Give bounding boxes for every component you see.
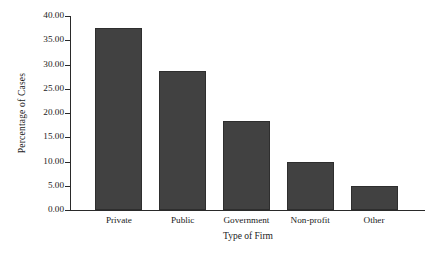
x-axis-tick-label: Other — [364, 213, 385, 227]
bar — [159, 71, 206, 210]
y-axis-tick-label: 40.00 — [43, 11, 64, 20]
bar — [351, 186, 398, 210]
y-axis-tick-mark — [65, 162, 70, 163]
x-axis-tick-label: Government — [223, 213, 269, 227]
bar — [287, 162, 334, 211]
y-axis-tick-label: 20.00 — [43, 108, 64, 117]
y-axis-tick-mark — [65, 65, 70, 66]
bar-chart: Percentage of Cases 0.005.0010.0015.0020… — [0, 0, 434, 263]
x-axis-tick-label: Non-profit — [291, 213, 330, 227]
y-axis-tick-mark — [65, 16, 70, 17]
y-axis-tick-mark — [65, 113, 70, 114]
x-axis-tick-label: Private — [106, 213, 132, 227]
bar — [223, 121, 270, 210]
y-axis-tick-mark — [65, 137, 70, 138]
x-axis-tick-labels: PrivatePublicGovernmentNon-profitOther — [71, 213, 425, 227]
bar — [95, 28, 142, 210]
y-axis-tick-mark — [65, 89, 70, 90]
x-axis-title: Type of Firm — [71, 229, 425, 243]
y-axis-tick-label: 5.00 — [48, 181, 64, 190]
y-axis-tick-labels: 0.005.0010.0015.0020.0025.0030.0035.0040… — [26, 16, 64, 210]
x-axis-line — [70, 210, 425, 211]
plot-area — [71, 16, 425, 210]
y-axis-tick-mark — [65, 186, 70, 187]
y-axis-tick-label: 0.00 — [48, 205, 64, 214]
y-axis-tick-label: 30.00 — [43, 60, 64, 69]
y-axis-tick-mark — [65, 210, 70, 211]
y-axis-tick-label: 25.00 — [43, 84, 64, 93]
y-axis-tick-label: 15.00 — [43, 133, 64, 142]
x-axis-tick-label: Public — [171, 213, 194, 227]
y-axis-tick-label: 10.00 — [43, 157, 64, 166]
y-axis-tick-label: 35.00 — [43, 36, 64, 45]
y-axis-tick-mark — [65, 40, 70, 41]
